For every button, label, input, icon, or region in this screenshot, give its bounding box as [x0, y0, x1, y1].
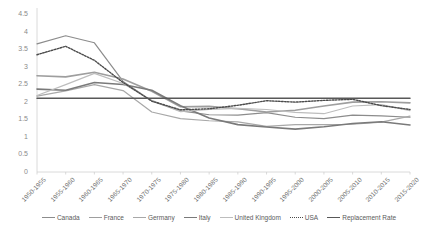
y-axis-tick-label: 0: [4, 168, 28, 176]
legend-label: Germany: [148, 214, 175, 221]
y-axis-tick-label: 4: [4, 28, 28, 36]
legend-label: Replacement Rate: [342, 214, 396, 221]
y-axis-tick-label: 1: [4, 133, 28, 141]
legend-swatch-icon: [220, 217, 233, 218]
legend-swatch-icon: [89, 217, 102, 218]
y-axis-tick-label: 3.5: [4, 45, 28, 53]
legend-swatch-icon: [133, 217, 146, 218]
legend-label: United Kingdom: [235, 214, 281, 221]
series-lines: [37, 36, 410, 129]
legend-item-replacement-rate[interactable]: Replacement Rate: [327, 214, 396, 221]
legend-swatch-icon: [290, 217, 303, 218]
legend-item-canada[interactable]: Canada: [42, 214, 80, 221]
legend-item-usa[interactable]: USA: [290, 214, 318, 221]
legend-label: France: [104, 214, 124, 221]
y-axis-tick-label: 0.5: [4, 150, 28, 158]
series-line-usa: [37, 46, 410, 110]
y-axis-tick-label: 3: [4, 63, 28, 71]
y-axis-tick-label: 4.5: [4, 10, 28, 18]
y-axis-tick-label: 1.5: [4, 115, 28, 123]
legend-label: Italy: [199, 214, 211, 221]
y-axis-tick-label: 2: [4, 98, 28, 106]
legend-label: USA: [305, 214, 318, 221]
legend-item-italy[interactable]: Italy: [184, 214, 211, 221]
legend-swatch-icon: [184, 217, 197, 218]
fertility-rate-line-chart: 4.543.532.521.510.50 1950-19551955-19601…: [0, 0, 438, 235]
axis-lines: [37, 8, 410, 175]
legend-swatch-icon: [42, 217, 55, 218]
legend-item-united-kingdom[interactable]: United Kingdom: [220, 214, 281, 221]
legend-label: Canada: [57, 214, 80, 221]
chart-legend: CanadaFranceGermanyItalyUnited KingdomUS…: [0, 209, 438, 225]
legend-item-france[interactable]: France: [89, 214, 124, 221]
legend-item-germany[interactable]: Germany: [133, 214, 175, 221]
legend-swatch-icon: [327, 217, 340, 218]
y-axis-tick-label: 2.5: [4, 80, 28, 88]
